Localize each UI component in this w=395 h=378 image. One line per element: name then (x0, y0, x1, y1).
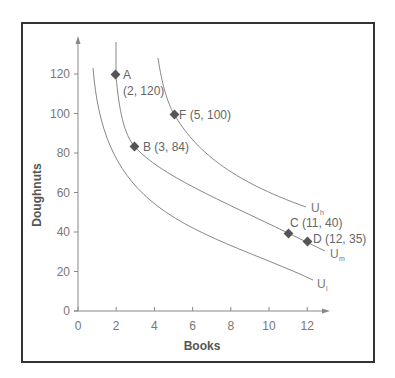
y-axis-title: Doughnuts (30, 163, 44, 227)
y-tick-label: 120 (50, 67, 70, 81)
curve-label-u-middle-sub: m (339, 255, 345, 262)
indifference-curve-chart: 020406080100120 024681012 Books Doughnut… (0, 0, 395, 378)
curve-u-low (93, 68, 313, 280)
y-tick-label: 80 (57, 146, 71, 160)
x-tick-label: 8 (227, 319, 234, 333)
y-tick-label: 60 (57, 186, 71, 200)
y-ticks: 020406080100120 (50, 67, 78, 318)
point-b-label: B (3, 84) (143, 140, 189, 154)
point-f-marker-icon (170, 110, 180, 120)
point-d-label: D (12, 35) (313, 232, 366, 246)
y-axis (76, 36, 81, 311)
point-a-coords: (2, 120) (123, 84, 164, 98)
curve-label-u-high-main: U (311, 201, 320, 215)
y-axis-arrow-icon (76, 36, 81, 44)
point-f: F (5, 100) (170, 108, 231, 122)
x-tick-label: 10 (262, 319, 276, 333)
point-a-marker-icon (111, 70, 121, 80)
curve-label-u-low-main: U (317, 277, 326, 291)
curve-label-u-low: U l (317, 277, 328, 292)
x-axis (74, 309, 330, 314)
x-axis-arrow-icon (322, 309, 330, 314)
curve-label-u-high-sub: h (320, 209, 324, 216)
y-tick-label: 40 (57, 225, 71, 239)
x-tick-label: 0 (75, 319, 82, 333)
x-tick-label: 12 (301, 319, 315, 333)
curve-label-u-high: U h (311, 201, 324, 216)
x-tick-label: 4 (151, 319, 158, 333)
point-c-marker-icon (284, 229, 294, 239)
curve-label-u-low-sub: l (326, 285, 328, 292)
point-a-name: A (123, 68, 131, 82)
point-d-marker-icon (303, 237, 313, 247)
curve-label-u-middle: U m (330, 247, 345, 262)
curve-label-u-middle-main: U (330, 247, 339, 261)
x-tick-label: 2 (113, 319, 120, 333)
point-b: B (3, 84) (130, 140, 189, 154)
point-c-label: C (11, 40) (290, 216, 342, 230)
point-d: D (12, 35) (303, 232, 367, 246)
y-tick-label: 100 (50, 107, 70, 121)
y-tick-label: 20 (57, 265, 71, 279)
x-tick-label: 6 (189, 319, 196, 333)
y-tick-label: 0 (63, 304, 70, 318)
x-axis-title: Books (184, 339, 221, 353)
point-a: A (2, 120) (111, 68, 165, 98)
curve-u-high (158, 58, 306, 207)
point-f-label: F (5, 100) (179, 108, 231, 122)
